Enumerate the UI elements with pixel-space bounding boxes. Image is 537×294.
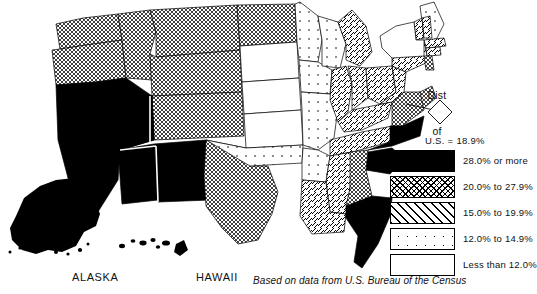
state-ND [237, 4, 297, 46]
national-average-label: U.S. = 18.9% [425, 136, 485, 147]
legend-swatch-dot-grid [390, 228, 455, 250]
legend-swatch-diagonal-lines [390, 202, 455, 224]
dc-label-line-1: Dist [416, 89, 458, 101]
state-CT [426, 47, 441, 56]
state-CO [152, 92, 244, 140]
state-MT [150, 5, 240, 57]
state-FL [346, 196, 392, 268]
state-AK [10, 178, 100, 254]
state-KS [244, 110, 303, 148]
state-MA [424, 38, 446, 48]
state-WY [150, 50, 242, 96]
state-AR [302, 148, 330, 182]
legend-label-diagonal: 15.0% to 19.9% [463, 207, 533, 218]
legend-label-crosshatch: 20.0% to 27.9% [463, 181, 533, 192]
source-caption: Based on data from U.S. Bureau of the Ce… [253, 275, 466, 287]
state-NE [242, 78, 301, 114]
legend-label-dots: 12.0% to 14.9% [463, 233, 533, 244]
state-MN [295, 2, 322, 62]
legend-swatch-blank-white [390, 254, 455, 276]
legend-swatch-solid-black [390, 150, 455, 172]
alaska-label: ALASKA [72, 271, 118, 284]
legend-swatch-cross-hatch [390, 176, 455, 198]
state-HI [119, 238, 188, 256]
state-SD [240, 42, 299, 82]
state-AZ [118, 144, 158, 204]
hawaii-label: HAWAII [196, 271, 238, 284]
legend-label-blank: Less than 12.0% [463, 259, 537, 270]
state-NH [422, 16, 432, 38]
legend-label-solid: 28.0% or more [463, 155, 528, 166]
state-NM [154, 140, 210, 202]
